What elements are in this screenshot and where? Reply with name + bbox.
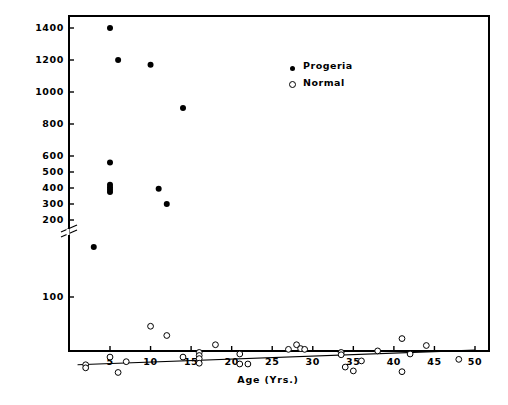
data-point-progeria — [115, 57, 121, 63]
data-point-progeria — [156, 186, 162, 192]
data-point-normal — [164, 333, 170, 339]
data-point-normal — [245, 361, 251, 367]
data-point-normal — [423, 343, 429, 349]
data-point-progeria — [164, 201, 170, 207]
data-point-progeria — [180, 105, 186, 111]
data-point-normal — [107, 354, 113, 360]
data-point-normal — [237, 361, 243, 367]
data-point-normal — [338, 352, 344, 358]
data-point-normal — [342, 364, 348, 370]
data-point-normal — [399, 336, 405, 342]
data-point-normal — [123, 359, 129, 365]
data-point-normal — [286, 346, 292, 352]
data-point-normal — [407, 351, 413, 357]
data-point-progeria — [107, 189, 113, 195]
data-point-progeria — [148, 62, 154, 68]
data-point-normal — [375, 348, 381, 354]
data-point-normal — [456, 356, 462, 362]
data-point-normal — [180, 354, 186, 360]
regression-line — [78, 350, 475, 365]
data-point-normal — [115, 370, 121, 376]
data-point-normal — [359, 358, 365, 364]
data-point-progeria — [107, 25, 113, 31]
data-point-normal — [196, 360, 202, 366]
data-point-progeria — [91, 244, 97, 250]
data-point-progeria — [107, 159, 113, 165]
plot-canvas — [0, 0, 508, 405]
data-point-normal — [148, 323, 154, 329]
data-point-normal — [83, 365, 89, 371]
data-point-normal — [213, 342, 219, 348]
figure-scatter-plot: HA(µg) Cr(g) 100200300400500600800100012… — [0, 0, 508, 405]
data-point-normal — [350, 368, 356, 374]
data-point-normal — [237, 351, 243, 357]
data-point-normal — [302, 346, 308, 352]
data-point-normal — [399, 369, 405, 375]
